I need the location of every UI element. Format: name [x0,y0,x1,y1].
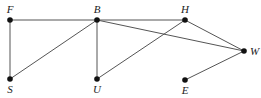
node-e [182,77,188,83]
edge-w-e [185,51,244,80]
labels-group: FSBUHWE [6,3,260,96]
node-s [7,76,13,82]
node-label-u: U [93,83,102,95]
edge-h-w [185,20,244,51]
graph-diagram: FSBUHWE [0,0,261,98]
edges-group [10,20,244,80]
node-label-w: W [250,45,260,57]
node-label-e: E [181,84,189,96]
node-label-b: B [94,3,101,15]
edge-b-w [97,20,244,51]
node-label-h: H [180,3,190,15]
node-f [7,17,13,23]
node-h [182,17,188,23]
node-label-s: S [7,83,13,95]
node-w [241,48,247,54]
node-u [94,76,100,82]
node-label-f: F [6,3,14,15]
edge-s-b [10,20,97,79]
nodes-group [7,17,247,83]
node-b [94,17,100,23]
